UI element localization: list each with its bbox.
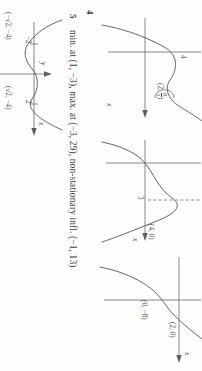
graph-4a-brace	[152, 84, 178, 100]
graph-4a-axis-x-label: x	[105, 103, 114, 106]
graph-4b-point-label: (4, 0)	[147, 224, 155, 240]
graph-4c-axes	[104, 257, 201, 363]
graph-5-axis-y-label: y	[39, 62, 48, 65]
answer-5-text: min. at (1, −3), max. at (−3, 29), non-s…	[68, 30, 78, 268]
graph-4a-axes	[108, 18, 201, 118]
question-number-5: 5	[68, 14, 78, 19]
graph-5-tick-2: 2	[24, 100, 32, 104]
graph-4b-curve	[102, 142, 177, 242]
graph-4c-point-label-1: (2, 0)	[168, 322, 176, 338]
graph-4c-axis-x-label: x	[183, 352, 192, 355]
graph-4b-tick-3: 3	[136, 196, 144, 200]
graph-5-tick-minus2: −2	[24, 36, 32, 44]
graph-4a-point-label-4: 4	[179, 55, 187, 59]
graph-5-axis-x-label: x	[37, 122, 46, 125]
graph-4b-axis-x-label: x	[131, 238, 140, 241]
graph-4a	[100, 0, 202, 128]
answers-page: 4 4 x (2, 83) 3 (4, 0) x	[0, 0, 202, 371]
graph-5-point-label-left: (−√2, −4)	[4, 12, 12, 40]
graph-4a-curve	[102, 25, 202, 121]
graph-4c-curve	[100, 267, 202, 339]
graph-4c-point-label-0: (0, −8)	[140, 300, 148, 320]
graph-5-point-label-right: (√2, −4)	[4, 86, 12, 110]
question-number-4: 4	[85, 10, 95, 15]
